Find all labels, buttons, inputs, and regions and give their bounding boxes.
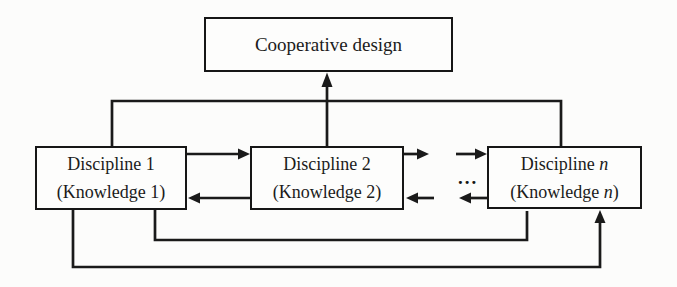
discipline-1-box: Discipline 1 (Knowledge 1)	[35, 146, 187, 210]
connector-disc1-discn-middle-feedback	[155, 208, 527, 240]
connector-disc1-discn-top-link	[112, 101, 561, 150]
cooperative-design-label: Cooperative design	[255, 31, 402, 59]
connector-disc2-to-disc1-arrow	[188, 193, 251, 204]
discipline-1-title: Discipline 1	[67, 150, 155, 178]
connector-into-discn-forward-arrow	[456, 149, 487, 160]
discipline-n-subtitle: (Knowledge n)	[510, 178, 618, 206]
discipline-n-title-prefix: Discipline	[521, 154, 600, 174]
discipline-n-subtitle-suffix: )	[613, 182, 619, 202]
connector-disc1-to-discn-bottom-feedback-arrow	[73, 208, 606, 267]
discipline-n-title: Discipline n	[521, 150, 609, 178]
discipline-1-subtitle: (Knowledge 1)	[57, 178, 165, 206]
connector-discn-backward-out-arrow	[459, 193, 488, 204]
connector-disc2-to-cooperative-arrow	[322, 73, 333, 151]
discipline-2-title: Discipline 2	[283, 150, 371, 178]
ellipsis-continuation: ...	[458, 168, 488, 188]
cooperative-design-box: Cooperative design	[204, 17, 453, 72]
discipline-n-title-variable: n	[599, 154, 608, 174]
connector-into-disc2-backward-arrow	[406, 193, 434, 204]
discipline-n-subtitle-prefix: (Knowledge	[510, 182, 603, 202]
diagram-canvas: Cooperative design Discipline 1 (Knowled…	[0, 0, 677, 287]
connector-disc2-forward-out-arrow	[403, 149, 429, 160]
discipline-2-box: Discipline 2 (Knowledge 2)	[250, 146, 404, 210]
discipline-2-subtitle: (Knowledge 2)	[273, 178, 381, 206]
discipline-n-box: Discipline n (Knowledge n)	[487, 146, 642, 209]
connector-disc1-to-disc2-arrow	[186, 149, 250, 160]
discipline-n-subtitle-variable: n	[604, 182, 613, 202]
